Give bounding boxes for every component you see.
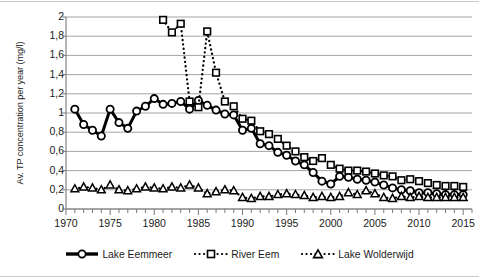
data-point-marker [442, 183, 449, 190]
data-point-marker [310, 158, 317, 165]
data-point-marker [309, 193, 317, 200]
data-point-marker [239, 115, 246, 122]
data-point-marker [177, 20, 184, 27]
chart-container: Av. TP concentration per year (mg/l) 00,… [0, 0, 479, 278]
plot-area [0, 0, 479, 278]
x-tick-label: 1985 [187, 217, 210, 229]
data-point-marker [353, 191, 361, 198]
data-point-marker [80, 121, 87, 128]
x-tick-label: 2000 [319, 217, 342, 229]
data-point-marker [389, 194, 397, 201]
data-point-marker [89, 127, 96, 134]
data-point-marker [186, 181, 194, 188]
data-point-marker [186, 98, 193, 105]
data-point-marker [283, 152, 290, 159]
dotted-line-triangle-marker-icon [301, 248, 335, 260]
data-point-marker [380, 181, 387, 188]
data-point-marker [239, 127, 246, 134]
data-point-marker [300, 191, 308, 198]
data-point-marker [168, 183, 176, 190]
legend-label-river-eem: River Eem [231, 249, 279, 260]
data-point-marker [212, 107, 219, 114]
data-point-marker [283, 190, 291, 197]
solid-line-circle-marker-icon [65, 248, 99, 260]
data-point-marker [416, 178, 423, 185]
data-point-marker [124, 125, 131, 132]
data-point-marker [425, 180, 432, 187]
data-point-marker [230, 111, 237, 118]
data-point-marker [433, 182, 440, 189]
data-point-marker [362, 177, 369, 184]
data-point-marker [142, 183, 150, 190]
legend-label-lake-wolderwijd: Lake Wolderwijd [338, 249, 413, 260]
data-point-marker [133, 185, 141, 192]
chart-legend: Lake Eemmeer River Eem Lake Wolderwijd [0, 248, 479, 260]
x-tick-label: 2010 [407, 217, 430, 229]
data-point-marker [283, 142, 290, 149]
data-point-marker [460, 184, 467, 191]
legend-item-river-eem[interactable]: River Eem [194, 248, 279, 260]
data-point-marker [327, 193, 335, 200]
data-point-marker [177, 184, 185, 191]
data-point-marker [98, 132, 105, 139]
data-point-marker [292, 157, 299, 164]
x-tick-label: 1990 [231, 217, 254, 229]
legend-item-lake-wolderwijd[interactable]: Lake Wolderwijd [301, 248, 413, 260]
data-point-marker [159, 185, 167, 192]
data-point-marker [203, 190, 211, 197]
data-point-marker [97, 186, 105, 193]
data-point-marker [345, 174, 352, 181]
data-point-marker [107, 106, 114, 113]
data-point-marker [301, 161, 308, 168]
data-point-marker [230, 103, 237, 110]
data-point-marker [150, 184, 158, 191]
data-point-marker [168, 100, 175, 107]
data-point-marker [371, 190, 379, 197]
legend-item-lake-eemmeer[interactable]: Lake Eemmeer [65, 248, 172, 260]
data-point-marker [89, 184, 97, 191]
data-point-marker [106, 181, 114, 188]
x-tick-label: 2005 [363, 217, 386, 229]
data-point-marker [204, 102, 211, 109]
data-point-marker [194, 184, 202, 191]
legend-label-lake-eemmeer: Lake Eemmeer [102, 249, 172, 260]
data-point-marker [292, 148, 299, 155]
data-point-marker [274, 149, 281, 156]
x-tick-label: 2015 [451, 217, 474, 229]
data-point-marker [372, 170, 379, 177]
data-point-marker [292, 191, 300, 198]
data-point-marker [327, 162, 334, 169]
data-point-marker [257, 128, 264, 135]
data-point-marker [327, 180, 334, 187]
data-point-marker [407, 176, 414, 183]
data-point-marker [389, 184, 396, 191]
data-point-marker [266, 131, 273, 138]
data-point-marker [212, 188, 220, 195]
data-point-marker [380, 172, 387, 179]
data-point-marker [221, 110, 228, 117]
data-point-marker [310, 169, 317, 176]
data-point-marker [301, 154, 308, 161]
data-point-marker [142, 103, 149, 110]
data-point-marker [275, 136, 282, 143]
data-point-marker [71, 106, 78, 113]
data-point-marker [177, 98, 184, 105]
data-point-marker [274, 191, 282, 198]
data-point-marker [406, 193, 414, 200]
data-point-marker [371, 179, 378, 186]
data-point-marker [451, 183, 458, 190]
data-point-marker [115, 119, 122, 126]
data-point-marker [115, 186, 123, 193]
data-point-marker [247, 194, 255, 201]
data-point-marker [336, 165, 343, 172]
data-point-marker [195, 104, 202, 111]
data-point-marker [71, 185, 79, 192]
x-tick-label: 1995 [275, 217, 298, 229]
x-tick-label: 1975 [98, 217, 121, 229]
data-point-marker [248, 117, 255, 124]
data-point-marker [186, 106, 193, 113]
data-point-marker [389, 173, 396, 180]
data-point-marker [363, 168, 370, 175]
data-point-marker [345, 167, 352, 174]
data-point-marker [319, 155, 326, 162]
